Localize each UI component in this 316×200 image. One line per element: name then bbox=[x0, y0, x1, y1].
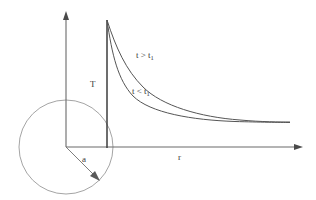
horizontal-axis-arrowhead-icon bbox=[294, 144, 303, 150]
decay-curve-later-time bbox=[107, 20, 290, 122]
curve-label-later-time-subscript: 1 bbox=[151, 54, 154, 61]
temperature-profile-diagram: T a r t > t1 t < t1 bbox=[0, 0, 316, 200]
radius-arrow-line bbox=[66, 147, 95, 176]
curve-label-earlier-time: t < t1 bbox=[132, 86, 150, 97]
curve-label-later-time-base: t > t bbox=[136, 50, 151, 60]
curve-label-later-time: t > t1 bbox=[136, 50, 154, 61]
decay-curve-earlier-time bbox=[107, 20, 290, 123]
curve-label-earlier-time-subscript: 1 bbox=[147, 90, 150, 97]
vertical-axis-arrowhead-icon bbox=[63, 11, 69, 20]
figure-container: T a r t > t1 t < t1 bbox=[0, 0, 316, 200]
radius-label: a bbox=[82, 154, 86, 164]
radial-distance-label: r bbox=[178, 152, 181, 162]
temperature-label: T bbox=[90, 79, 96, 89]
curve-label-earlier-time-base: t < t bbox=[132, 86, 147, 96]
